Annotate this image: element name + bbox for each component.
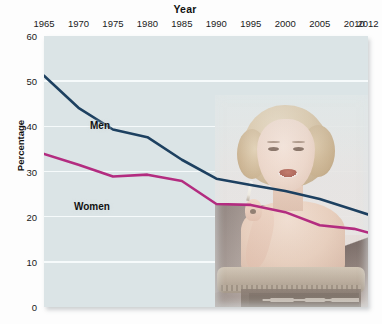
plot-inner: Men Women [44,36,368,307]
series-label-men: Men [90,120,110,131]
x-tick-1990: 1990 [206,18,227,29]
y-tick-30: 30 [26,166,37,177]
x-tick-2012: 2012 [357,18,378,29]
y-tick-50: 50 [26,76,37,87]
x-tick-1985: 1985 [171,18,192,29]
chart-figure: Year 19651970197519801985199019952000200… [0,0,382,324]
y-tick-10: 10 [26,256,37,267]
chart-title: Year [0,3,382,15]
x-tick-1995: 1995 [240,18,261,29]
series-line-men [44,76,368,215]
y-tick-40: 40 [26,121,37,132]
y-tick-0: 0 [32,302,37,313]
chart-title-text: Year [174,3,197,15]
y-tick-20: 20 [26,211,37,222]
x-tick-2000: 2000 [275,18,296,29]
x-tick-1980: 1980 [137,18,158,29]
x-tick-1975: 1975 [102,18,123,29]
y-axis-tick-labels: 0102030405060 [0,0,44,324]
y-tick-60: 60 [26,31,37,42]
plot-area: Men Women [44,36,368,307]
x-tick-1970: 1970 [68,18,89,29]
series-label-women: Women [74,201,110,212]
data-series-layer [44,36,368,307]
x-tick-2005: 2005 [309,18,330,29]
series-line-women [44,154,368,233]
x-axis-tick-labels: 1965197019751980198519901995200020052010… [44,18,368,32]
